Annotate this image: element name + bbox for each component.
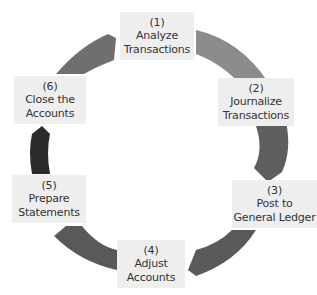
arc-arrow-4-to-5 [54, 226, 117, 270]
step-label-line2: General Ledger [233, 211, 315, 225]
step-label-line2: Accounts [26, 107, 75, 121]
step-label-line2: Statements [18, 206, 80, 220]
step-label-line2: Transactions [124, 43, 190, 57]
step-label-line1: Analyze [136, 29, 178, 43]
step-label-line1: Adjust [134, 257, 167, 271]
arc-arrow-3-to-4 [188, 230, 256, 276]
step-2-journalize-transactions: (2) Journalize Transactions [218, 78, 294, 126]
step-number: (5) [42, 179, 57, 193]
step-number: (4) [144, 244, 159, 258]
step-label-line1: Prepare [29, 192, 70, 206]
arc-arrow-2-to-3 [254, 122, 288, 182]
step-label-line2: Transactions [223, 109, 289, 123]
step-6-close-the-accounts: (6) Close the Accounts [14, 76, 86, 124]
step-4-adjust-accounts: (4) Adjust Accounts [117, 240, 185, 288]
step-number: (6) [43, 80, 58, 94]
arc-arrow-5-to-6 [30, 126, 50, 174]
step-number: (3) [267, 184, 282, 198]
step-5-prepare-statements: (5) Prepare Statements [12, 175, 86, 223]
step-1-analyze-transactions: (1) Analyze Transactions [120, 12, 194, 60]
step-label-line1: Post to [256, 197, 292, 211]
step-label-line2: Accounts [127, 271, 176, 285]
step-label-line1: Journalize [230, 95, 282, 109]
step-3-post-to-general-ledger: (3) Post to General Ledger [232, 180, 317, 228]
step-number: (1) [150, 16, 165, 30]
step-number: (2) [249, 82, 264, 96]
arc-arrow-6-to-1 [56, 34, 116, 74]
step-label-line1: Close the [25, 93, 75, 107]
